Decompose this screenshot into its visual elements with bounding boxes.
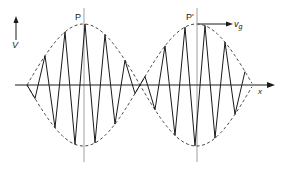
envelope-lower xyxy=(27,85,252,146)
group-velocity-label: vg xyxy=(234,20,242,30)
peak-label-p: P xyxy=(75,13,81,22)
peak-label-p-prime: P' xyxy=(186,13,194,22)
v-axis-arrow-icon xyxy=(14,16,19,23)
x-axis-arrow-icon xyxy=(267,82,275,88)
y-axis-label: V xyxy=(12,41,18,50)
x-axis-label: x xyxy=(258,88,262,96)
velocity-subscript: g xyxy=(239,23,243,30)
group-velocity-arrow-icon xyxy=(226,22,233,27)
